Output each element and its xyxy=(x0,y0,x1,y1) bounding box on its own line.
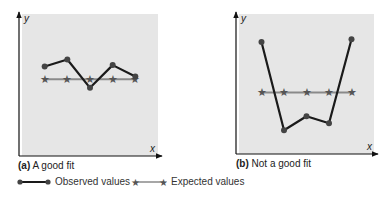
plot-b-title: Not a good fit xyxy=(252,158,311,169)
legend-expected-label: Expected values xyxy=(171,176,244,187)
plot-b-caption: (b) Not a good fit xyxy=(236,158,311,169)
svg-text:★: ★ xyxy=(159,177,168,187)
plot-b-expected-point: ★ xyxy=(302,86,312,98)
plot-a-observed-point xyxy=(132,73,138,79)
plot-a-observed-point xyxy=(42,64,48,70)
plot-b-expected-point: ★ xyxy=(324,86,334,98)
observed-legend-marker-icon xyxy=(17,177,51,187)
plot-a-observed-point xyxy=(87,85,93,91)
plot-b-observed-point xyxy=(259,39,265,45)
expected-legend-marker-icon: ★ ★ xyxy=(131,177,167,187)
plot-b-panel-background xyxy=(239,14,374,154)
legend-observed: Observed values xyxy=(17,176,130,187)
plot-b-not-good-fit: y x ★★★★★ xyxy=(236,12,378,154)
plot-a-expected-point: ★ xyxy=(108,73,118,85)
plot-b-panel-label: (b) xyxy=(236,158,249,169)
svg-text:★: ★ xyxy=(131,177,140,187)
plot-a-panel-label: (a) xyxy=(18,160,30,171)
plot-a-caption: (a) A good fit xyxy=(18,160,74,171)
plot-a-expected-point: ★ xyxy=(85,73,95,85)
plot-a-good-fit: y x ★★★★★ xyxy=(19,12,162,156)
plot-b-observed-point xyxy=(304,113,310,119)
plot-b-observed-point xyxy=(326,120,332,126)
plot-a-title: A good fit xyxy=(32,160,74,171)
plot-a-expected-point: ★ xyxy=(62,73,72,85)
plot-b-expected-point: ★ xyxy=(347,86,357,98)
legend-observed-label: Observed values xyxy=(55,176,130,187)
plot-b-y-label: y xyxy=(240,13,247,24)
plot-a-expected-point: ★ xyxy=(40,73,50,85)
plot-a-observed-point xyxy=(110,62,116,68)
plot-b-x-label: x xyxy=(366,141,373,152)
plot-b-observed-point xyxy=(349,36,355,42)
plot-a-observed-point xyxy=(64,56,70,62)
plot-b-expected-point: ★ xyxy=(279,86,289,98)
plot-b-expected-point: ★ xyxy=(257,86,267,98)
plot-a-x-label: x xyxy=(149,143,156,154)
plot-b-observed-point xyxy=(281,127,287,133)
plot-a-y-label: y xyxy=(23,13,30,24)
legend-expected: ★ ★ Expected values xyxy=(131,176,244,187)
